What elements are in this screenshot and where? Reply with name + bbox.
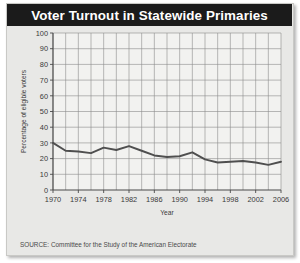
chart-title-bar: Voter Turnout in Statewide Primaries	[7, 4, 292, 26]
x-tick-label: 2002	[247, 195, 263, 204]
x-tick-label: 1978	[95, 195, 111, 204]
y-tick-label: 10	[40, 170, 48, 179]
y-tick-label: 30	[40, 139, 48, 148]
x-tick-label: 2006	[273, 195, 289, 204]
x-tick-label: 1998	[222, 195, 238, 204]
source-note: SOURCE: Committee for the Study of the A…	[20, 241, 197, 248]
line-chart: 0102030405060708090100197019741978198219…	[6, 27, 294, 239]
x-tick-label: 1982	[121, 195, 137, 204]
y-tick-label: 40	[40, 123, 48, 132]
y-tick-label: 50	[40, 107, 48, 116]
x-tick-label: 1990	[171, 195, 187, 204]
y-tick-label: 70	[40, 76, 48, 85]
x-tick-label: 1974	[70, 195, 86, 204]
page-title: Voter Turnout in Statewide Primaries	[31, 8, 268, 23]
x-tick-label: 1986	[146, 195, 162, 204]
plot-area-container: 0102030405060708090100197019741978198219…	[6, 27, 294, 239]
chart-figure: Voter Turnout in Statewide Primaries 010…	[0, 0, 300, 263]
x-axis-title: Year	[160, 209, 174, 216]
y-axis-title: Percentage of eligible voters	[20, 69, 28, 153]
x-tick-label: 1994	[197, 195, 213, 204]
y-tick-label: 100	[36, 29, 48, 38]
y-tick-label: 80	[40, 60, 48, 69]
y-tick-label: 20	[40, 154, 48, 163]
y-tick-label: 90	[40, 44, 48, 53]
y-tick-label: 60	[40, 92, 48, 101]
y-tick-label: 0	[44, 186, 48, 195]
x-tick-label: 1970	[45, 195, 61, 204]
